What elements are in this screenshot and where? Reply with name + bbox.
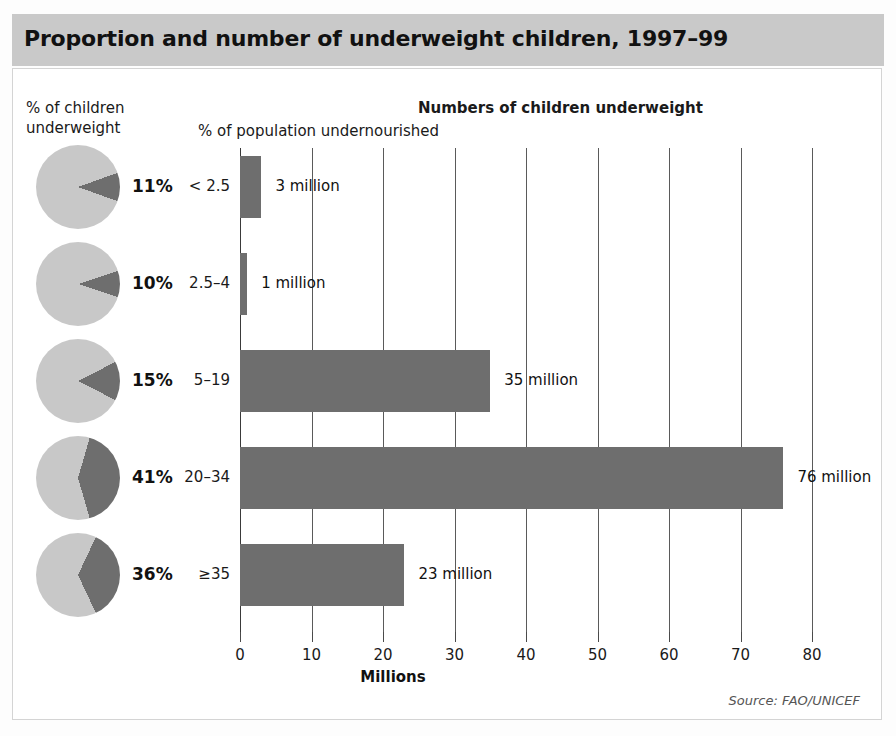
pie-chart (36, 533, 120, 617)
x-tick (312, 632, 313, 642)
x-tick (240, 632, 241, 642)
x-axis-title: Millions (0, 668, 896, 686)
bar (240, 544, 404, 606)
category-label: ≥35 (166, 565, 230, 583)
bar-value-label: 23 million (418, 565, 492, 583)
bar-value-label: 3 million (275, 177, 339, 195)
x-tick (812, 632, 813, 642)
gridline (812, 148, 813, 632)
x-tick (455, 632, 456, 642)
category-label: < 2.5 (166, 177, 230, 195)
source-note: Source: FAO/UNICEF (728, 693, 860, 708)
pie-column-heading: % of children underweight (26, 98, 124, 138)
pie-column-heading-line1: % of children (26, 99, 124, 117)
bar-value-label: 76 million (797, 468, 871, 486)
x-tick-label: 70 (721, 646, 761, 664)
x-tick-label: 40 (506, 646, 546, 664)
x-tick-label: 30 (435, 646, 475, 664)
x-tick (741, 632, 742, 642)
gridline (598, 148, 599, 632)
bar (240, 350, 490, 412)
category-label: 2.5–4 (166, 274, 230, 292)
x-axis-title-text: Millions (360, 668, 425, 686)
x-tick-label: 80 (792, 646, 832, 664)
category-label: 20–34 (166, 468, 230, 486)
x-tick-label: 0 (220, 646, 260, 664)
bar (240, 156, 261, 218)
chart-figure: Proportion and number of underweight chi… (0, 0, 896, 736)
pie-chart (36, 145, 120, 229)
gridline (741, 148, 742, 632)
x-tick-label: 60 (649, 646, 689, 664)
pie-chart (36, 242, 120, 326)
page-title: Proportion and number of underweight chi… (24, 26, 728, 51)
x-tick (669, 632, 670, 642)
x-tick (383, 632, 384, 642)
pie-chart (36, 339, 120, 423)
x-tick (526, 632, 527, 642)
pie-column-heading-line2: underweight (26, 119, 121, 137)
bar-value-label: 35 million (504, 371, 578, 389)
x-tick-label: 20 (363, 646, 403, 664)
bars-column-heading: Numbers of children underweight (418, 98, 703, 118)
category-column-heading: % of population undernourished (198, 121, 439, 141)
bar-value-label: 1 million (261, 274, 325, 292)
gridline (526, 148, 527, 632)
x-tick-label: 10 (292, 646, 332, 664)
gridline (669, 148, 670, 632)
pie-chart (36, 436, 120, 520)
x-tick (598, 632, 599, 642)
bar (240, 253, 247, 315)
x-tick-label: 50 (578, 646, 618, 664)
category-label: 5–19 (166, 371, 230, 389)
bar (240, 447, 783, 509)
